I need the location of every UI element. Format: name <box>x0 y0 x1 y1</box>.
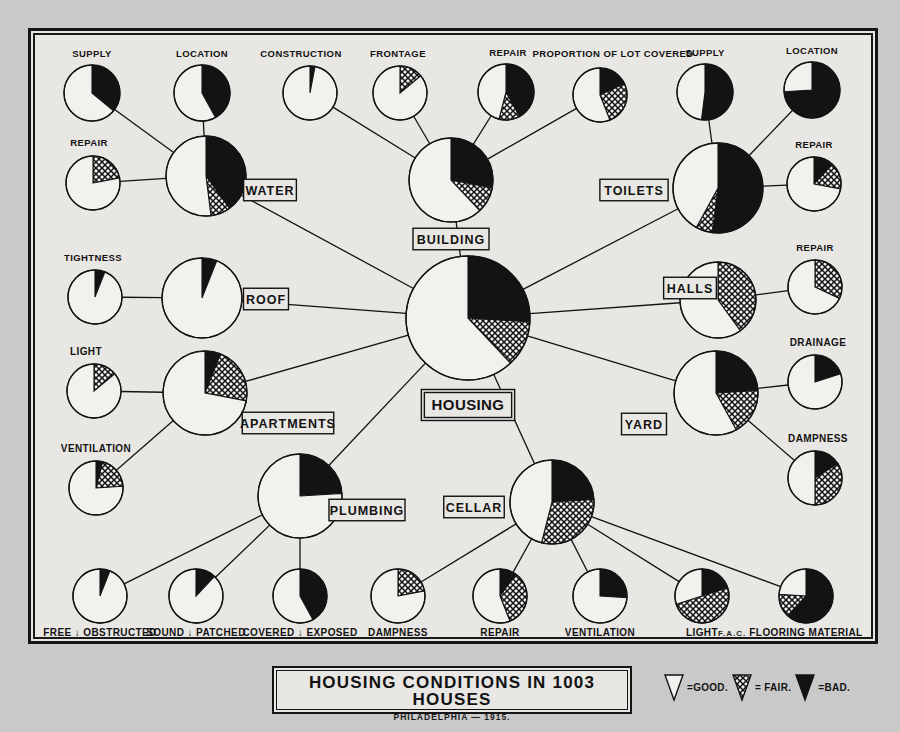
pie-housing[interactable] <box>406 256 530 380</box>
network-pie-diagram: SUPPLYLOCATIONREPAIRCONSTRUCTIONFRONTAGE… <box>0 0 900 732</box>
link-water-to-water-repair <box>120 178 166 181</box>
pie-halls[interactable] <box>680 262 756 338</box>
page-title: HOUSING CONDITIONS IN 1003 HOUSES <box>274 674 630 708</box>
pie-yard-drainage[interactable] <box>788 355 842 409</box>
pie-plumbing-covered[interactable] <box>273 569 327 623</box>
legend-item-bad: =BAD. <box>794 672 850 702</box>
leaf-label-building-frontage: FRONTAGE <box>370 48 426 59</box>
link-housing-to-apartments <box>245 335 408 381</box>
hub-label-water[interactable]: WATER <box>244 179 297 201</box>
link-toilets-to-toilets-location <box>749 110 792 155</box>
link-housing-to-toilets <box>523 209 678 290</box>
leaf-label-cellar-ventilation: VENTILATION <box>565 627 635 638</box>
pie-toilets-bad <box>712 143 763 233</box>
pie-building-frontage[interactable] <box>373 66 427 120</box>
pie-group <box>64 62 842 623</box>
hub-label-toilets[interactable]: TOILETS <box>600 179 668 201</box>
leaf-label-cellar-flooring: FLOORING MATERIAL <box>749 627 862 638</box>
pie-toilets-supply-good <box>677 64 705 120</box>
leaf-label-building-lot: PROPORTION OF LOT COVERED <box>533 48 694 59</box>
pie-plumbing[interactable] <box>258 454 342 538</box>
legend-item-good: =GOOD. <box>663 672 728 702</box>
pie-building-lot[interactable] <box>573 68 627 122</box>
link-toilets-to-toilets-supply <box>709 120 712 144</box>
hub-label-apartments[interactable]: APARTMENTS <box>240 412 336 434</box>
pie-water-supply[interactable] <box>64 65 120 121</box>
hub-label-water-text: WATER <box>245 184 294 198</box>
legend-label-fair: = FAIR. <box>755 682 791 693</box>
pie-water-location[interactable] <box>174 65 230 121</box>
pie-plumbing-sound[interactable] <box>169 569 223 623</box>
link-yard-to-yard-drainage <box>758 385 788 388</box>
bad-wedge-icon <box>794 672 816 702</box>
link-housing-to-yard <box>527 336 675 381</box>
leaf-label-yard-drainage: DRAINAGE <box>790 337 847 348</box>
pie-water-repair[interactable] <box>66 156 120 210</box>
pie-yard[interactable] <box>674 351 758 435</box>
link-building-to-building-frontage <box>414 116 430 143</box>
leaf-label-roof-tightness: TIGHTNESS <box>64 252 122 263</box>
pie-roof[interactable] <box>162 258 242 338</box>
pie-toilets-repair[interactable] <box>787 157 841 211</box>
hub-label-plumbing-text: PLUMBING <box>330 504 405 518</box>
pie-halls-repair[interactable] <box>788 260 842 314</box>
hub-label-roof[interactable]: ROOF <box>244 288 289 310</box>
pie-cellar-repair[interactable] <box>473 569 527 623</box>
link-apartments-to-apartments-light <box>121 391 163 392</box>
pie-building-repair[interactable] <box>478 64 534 120</box>
pie-cellar-dampness[interactable] <box>371 569 425 623</box>
pie-water-good <box>166 136 211 216</box>
pie-cellar[interactable] <box>510 460 594 544</box>
good-wedge-icon <box>663 672 685 702</box>
legend: =GOOD. = FAIR. =BAD. <box>663 670 893 704</box>
pie-cellar-light[interactable] <box>675 569 729 623</box>
hub-label-building-text: BUILDING <box>417 233 485 247</box>
pie-cellar-ventilation[interactable] <box>573 569 627 623</box>
pie-yard-dampness[interactable] <box>788 451 842 505</box>
hub-label-yard[interactable]: YARD <box>622 413 667 435</box>
link-halls-to-halls-repair <box>756 291 789 295</box>
hub-label-cellar-text: CELLAR <box>446 501 503 515</box>
leaf-label-yard-dampness: DAMPNESS <box>788 433 848 444</box>
link-water-to-water-supply <box>115 109 174 152</box>
leaf-label-water-supply: SUPPLY <box>72 48 112 59</box>
hub-label-building[interactable]: BUILDING <box>413 228 489 250</box>
link-housing-to-plumbing <box>329 363 426 465</box>
root-label-housing[interactable]: HOUSING <box>421 390 514 421</box>
leaf-label-toilets-supply: SUPPLY <box>685 47 725 58</box>
link-building-to-building-repair <box>473 116 491 145</box>
pie-building-construction[interactable] <box>283 66 337 120</box>
leaf-label-plumbing-free: FREE ↓ OBSTRUCTED <box>43 627 156 638</box>
pie-apartments-ventilation[interactable] <box>69 461 123 515</box>
link-plumbing-to-plumbing-sound <box>215 525 269 577</box>
hub-label-halls[interactable]: HALLS <box>664 277 717 299</box>
infographic-sheet: SUPPLYLOCATIONREPAIRCONSTRUCTIONFRONTAGE… <box>0 0 900 732</box>
pie-building[interactable] <box>409 138 493 222</box>
page-subtitle: PHILADELPHIA — 1915. <box>274 712 630 722</box>
leaf-label-apartments-light: LIGHT <box>70 346 102 357</box>
root-label-text: HOUSING <box>432 396 505 413</box>
pie-water[interactable] <box>166 136 246 216</box>
leaf-label-cellar-repair: REPAIR <box>480 627 520 638</box>
hub-label-halls-text: HALLS <box>667 282 714 296</box>
hub-label-plumbing[interactable]: PLUMBING <box>329 499 405 521</box>
leaf-label-plumbing-sound: SOUND ↓ PATCHED <box>146 627 246 638</box>
pie-toilets-supply[interactable] <box>677 64 733 120</box>
pie-toilets-location[interactable] <box>784 62 840 118</box>
link-cellar-to-cellar-repair <box>513 539 532 573</box>
hub-label-apartments-text: APARTMENTS <box>240 417 336 431</box>
leaf-label-toilets-location: LOCATION <box>786 45 838 56</box>
link-housing-to-water <box>241 195 413 288</box>
pie-cellar-flooring[interactable] <box>779 569 833 623</box>
pie-plumbing-free[interactable] <box>73 569 127 623</box>
pie-roof-tightness[interactable] <box>68 270 122 324</box>
link-toilets-to-toilets-repair <box>763 185 787 186</box>
pie-housing-bad <box>468 256 530 322</box>
pie-toilets[interactable] <box>673 143 763 233</box>
hub-label-roof-text: ROOF <box>246 293 286 307</box>
leaf-label-plumbing-covered: COVERED ↓ EXPOSED <box>242 627 357 638</box>
hub-label-cellar[interactable]: CELLAR <box>444 496 505 518</box>
pie-apartments-light[interactable] <box>67 364 121 418</box>
pie-apartments[interactable] <box>163 351 247 435</box>
pie-building-bad <box>451 138 493 188</box>
